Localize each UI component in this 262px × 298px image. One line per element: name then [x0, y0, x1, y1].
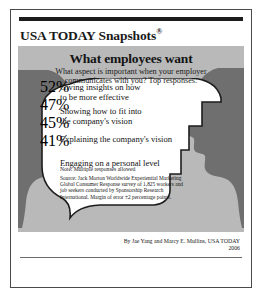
- chart-subtitle-line1: What aspect is important when your emplo…: [26, 67, 236, 76]
- byline-credit: By Jae Yang and Marcy E. Mullins, USA TO…: [18, 238, 240, 245]
- registered-mark-icon: ®: [156, 27, 162, 36]
- source-line: International. Margin of error ±2 percen…: [60, 194, 210, 200]
- brand-name: USA TODAY Snapshots: [20, 28, 156, 43]
- chart-panel: What employees want What aspect is impor…: [18, 46, 244, 232]
- outer-frame: USA TODAY Snapshots® What employees want…: [10, 9, 252, 288]
- note-text: Note: Multiple responses allowed: [60, 166, 210, 172]
- bottom-rule: [20, 257, 242, 258]
- bar-label-line2: the company's vision: [60, 116, 142, 126]
- chart-subtitle: What aspect is important when your emplo…: [18, 66, 244, 86]
- bar-label-line1: Explaining the company's vision: [60, 134, 172, 144]
- brand-title: USA TODAY Snapshots®: [18, 24, 244, 46]
- bar-label-line2: to be more effective: [60, 92, 140, 102]
- speech-bubble: Giving insights on how to be more effect…: [40, 78, 236, 230]
- bar-row: Explaining the company's vision: [60, 134, 172, 144]
- bar-row: Showing how to fit into the company's vi…: [60, 106, 142, 126]
- byline-year: 2006: [18, 245, 240, 252]
- top-rule: [19, 17, 243, 21]
- notes-block: Note: Multiple responses allowed Source:…: [60, 166, 210, 200]
- bar-label-line1: Showing how to fit into: [60, 106, 142, 116]
- bar-rows: Giving insights on how to be more effect…: [40, 78, 236, 230]
- chart-title: What employees want: [18, 46, 244, 66]
- snapshot-infographic: USA TODAY Snapshots® What employees want…: [0, 0, 262, 298]
- byline: By Jae Yang and Marcy E. Mullins, USA TO…: [18, 232, 244, 252]
- chart-subtitle-line2: communicates with you? Top responses:: [26, 76, 236, 85]
